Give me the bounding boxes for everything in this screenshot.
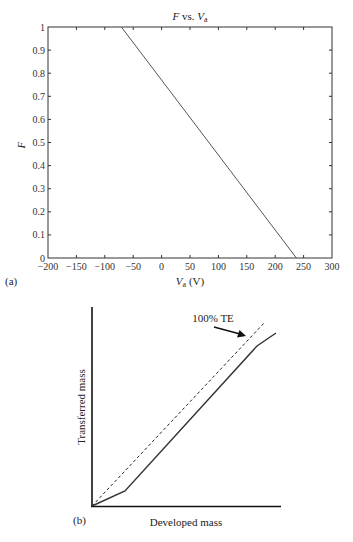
- chart-a-y-axis-label: F: [15, 141, 27, 149]
- y-tick-label: 0.1: [33, 229, 46, 240]
- x-tick-label: 300: [325, 261, 340, 272]
- x-tick-label: −50: [125, 261, 141, 272]
- chart-b-annotation: 100% TE: [192, 312, 234, 324]
- chart-b-actual-line: [92, 333, 276, 506]
- x-tick-label: −100: [94, 261, 115, 272]
- chart-a-y-ticks: [48, 50, 332, 235]
- chart-a-y-tick-labels: 0 0.1 0.2 0.3 0.4 0.5 0.6 0.7 0.8 0.9 1: [33, 22, 46, 264]
- y-tick-label: 0.8: [33, 68, 46, 79]
- chart-a-plot-area: [48, 27, 332, 258]
- x-tick-label: 100: [211, 261, 226, 272]
- y-tick-label: 0: [40, 253, 45, 264]
- chart-a-title: F vs. Va: [171, 10, 208, 24]
- chart-a-x-tick-labels: −200 −150 −100 −50 0 50 100 150 200 250 …: [38, 261, 340, 272]
- x-tick-label: 200: [268, 261, 283, 272]
- y-tick-label: 0.7: [33, 91, 46, 102]
- x-tick-label: 250: [296, 261, 311, 272]
- chart-a: F vs. Va −200: [5, 10, 340, 289]
- chart-b-y-axis-label: Transferred mass: [75, 369, 87, 445]
- y-tick-label: 0.4: [33, 160, 46, 171]
- y-tick-label: 0.3: [33, 183, 46, 194]
- y-tick-label: 1: [40, 22, 45, 33]
- y-tick-label: 0.2: [33, 206, 46, 217]
- arrow-icon: [214, 327, 246, 338]
- chart-a-panel-label: (a): [5, 275, 18, 288]
- chart-b-x-axis-label: Developed mass: [150, 516, 222, 528]
- chart-a-x-ticks: [76, 27, 303, 258]
- chart-b: 100% TE Transferred mass Developed mass …: [73, 307, 281, 528]
- chart-a-x-axis-label: Va (V): [176, 275, 205, 289]
- x-tick-label: 150: [239, 261, 254, 272]
- y-tick-label: 0.6: [33, 114, 46, 125]
- chart-a-series-line: [121, 27, 296, 258]
- figure: F vs. Va −200: [0, 0, 353, 542]
- y-tick-label: 0.5: [33, 137, 46, 148]
- chart-b-panel-label: (b): [73, 514, 86, 527]
- chart-b-ideal-te-line: [92, 322, 265, 506]
- y-tick-label: 0.9: [33, 45, 46, 56]
- x-tick-label: −150: [66, 261, 87, 272]
- x-tick-label: 0: [159, 261, 164, 272]
- x-tick-label: 50: [185, 261, 195, 272]
